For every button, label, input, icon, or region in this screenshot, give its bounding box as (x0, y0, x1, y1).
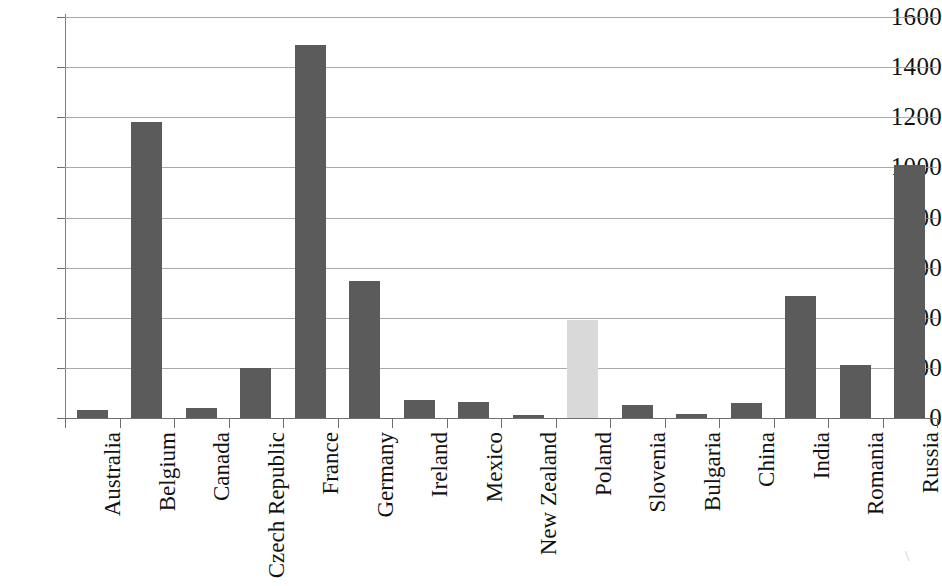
x-tick-10 (610, 419, 611, 428)
x-tick-15 (883, 419, 884, 428)
bar-mexico (458, 402, 489, 418)
x-tick-label-slovenia: Slovenia (646, 432, 669, 513)
x-tick-8 (501, 419, 502, 428)
x-tick-label-australia: Australia (101, 432, 124, 516)
x-tick-label-france: France (319, 432, 342, 495)
x-tick-0 (65, 419, 66, 428)
x-tick-label-poland: Poland (592, 432, 615, 496)
x-tick-3 (229, 419, 230, 428)
chart-page: 16001400120010008006004002000 AustraliaB… (0, 0, 942, 586)
x-tick-11 (665, 419, 666, 428)
x-tick-12 (719, 419, 720, 428)
x-tick-1 (120, 419, 121, 428)
bar-australia (77, 410, 108, 418)
x-tick-label-china: China (755, 432, 778, 487)
x-tick-label-czech-republic: Czech Republic (265, 432, 288, 578)
x-tick-6 (392, 419, 393, 428)
x-tick-16 (937, 419, 938, 428)
x-tick-14 (828, 419, 829, 428)
bar-ireland (404, 400, 435, 418)
x-tick-label-new-zealand: New Zealand (537, 432, 560, 555)
x-tick-7 (447, 419, 448, 428)
x-tick-label-india: India (810, 432, 833, 479)
gridline-1400 (65, 67, 937, 68)
bar-germany (349, 281, 380, 418)
scan-artifact: \ (905, 548, 915, 562)
x-tick-label-germany: Germany (374, 432, 397, 518)
x-tick-5 (338, 419, 339, 428)
x-tick-label-canada: Canada (210, 432, 233, 501)
gridline-600 (65, 268, 937, 269)
gridline-1600 (65, 17, 937, 18)
bar-china (731, 403, 762, 418)
bar-belgium (131, 122, 162, 418)
bar-romania (840, 365, 871, 418)
x-tick-label-russia: Russia (919, 432, 942, 493)
x-tick-label-romania: Romania (864, 432, 887, 515)
plot-area (65, 17, 937, 418)
bar-india (785, 296, 816, 418)
x-tick-label-ireland: Ireland (428, 432, 451, 497)
x-tick-label-bulgaria: Bulgaria (701, 432, 724, 511)
bar-czech-republic (240, 368, 271, 418)
gridline-1200 (65, 117, 937, 118)
x-tick-label-belgium: Belgium (156, 432, 179, 511)
bar-russia (894, 165, 925, 418)
bar-poland (567, 320, 598, 418)
bar-france (295, 45, 326, 418)
x-tick-2 (174, 419, 175, 428)
x-tick-4 (283, 419, 284, 428)
gridline-1000 (65, 167, 937, 168)
gridline-800 (65, 218, 937, 219)
bar-slovenia (622, 405, 653, 418)
x-tick-9 (556, 419, 557, 428)
x-tick-label-mexico: Mexico (483, 432, 506, 502)
bar-canada (186, 408, 217, 418)
x-tick-13 (774, 419, 775, 428)
